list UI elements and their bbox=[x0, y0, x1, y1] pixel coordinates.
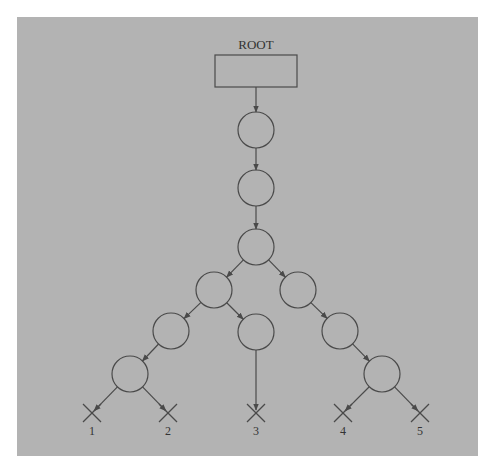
root-label: ROOT bbox=[238, 37, 273, 52]
edge-arrow bbox=[227, 303, 244, 320]
leaf-4: 4 bbox=[334, 404, 352, 438]
tree-node-circle bbox=[196, 272, 232, 308]
tree-node-circle bbox=[238, 170, 274, 206]
leaf-label: 1 bbox=[89, 424, 95, 438]
tree-node-circle bbox=[238, 112, 274, 148]
leaf-1: 1 bbox=[83, 404, 101, 438]
leaf-label: 4 bbox=[340, 424, 346, 438]
tree-node-circle bbox=[322, 313, 358, 349]
edge-arrow bbox=[311, 303, 327, 319]
tree-node-circle bbox=[280, 272, 316, 308]
tree-node-circle bbox=[153, 313, 189, 349]
edges bbox=[94, 87, 418, 411]
leaf-label: 5 bbox=[417, 424, 423, 438]
tree-node-circle bbox=[238, 314, 274, 350]
leaf-label: 3 bbox=[253, 424, 259, 438]
leaf-5: 5 bbox=[411, 404, 429, 438]
edge-arrow bbox=[353, 344, 370, 361]
edge-arrow bbox=[227, 260, 244, 277]
tree-diagram: ROOT 12345 bbox=[0, 0, 497, 472]
edge-arrow bbox=[184, 302, 201, 318]
edge-arrow bbox=[269, 260, 286, 277]
root-node: ROOT bbox=[215, 37, 297, 87]
edge-arrow bbox=[142, 344, 158, 361]
leaf-label: 2 bbox=[165, 424, 171, 438]
tree-node-circle bbox=[238, 229, 274, 265]
root-box bbox=[215, 55, 297, 87]
tree-node-circle bbox=[364, 356, 400, 392]
leaf-2: 2 bbox=[159, 404, 177, 438]
tree-node-circle bbox=[112, 356, 148, 392]
